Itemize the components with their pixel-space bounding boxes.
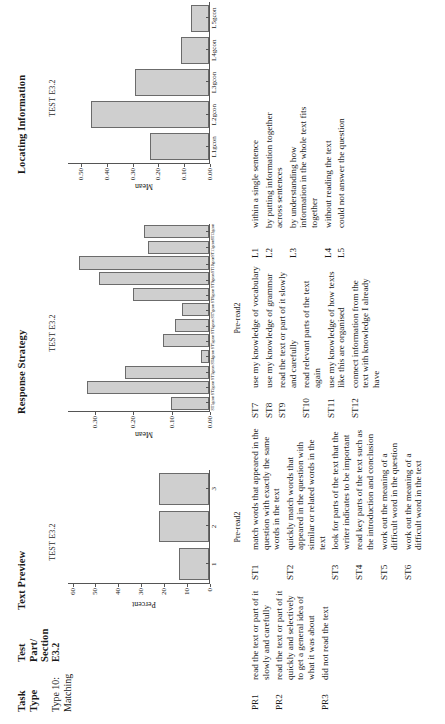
y-tick-label: 0.00	[206, 168, 214, 180]
y-tick-label: 50	[91, 588, 99, 595]
code-legend: PR1read the text or part of it slowly an…	[250, 8, 434, 714]
legend-description: read the text or part of it slowly and c…	[277, 266, 298, 388]
rotated-page-wrapper: TaskType TestPart/Section Text Preview R…	[0, 0, 445, 724]
chart-title-2: TEST E3.2	[48, 314, 57, 352]
chart-1-y-axis-label: Percent	[132, 600, 156, 609]
bar-slot	[68, 333, 209, 349]
legend-row: ST4read key parts of the text such as th…	[354, 428, 375, 580]
legend-description: did not read the text	[320, 588, 331, 680]
bar	[79, 256, 209, 269]
legend-code: ST9	[277, 388, 298, 418]
legend-row: L1within a single sentence	[250, 106, 261, 258]
legend-row: ST2quickly match words that appeared in …	[285, 428, 327, 580]
legend-code: ST5	[379, 550, 400, 580]
x-tick-label: ST2gcon	[210, 380, 228, 395]
legend-code: L5	[336, 228, 347, 258]
x-tick-label: L4gcon	[210, 34, 228, 66]
chart-text-preview: TEST E3.2 Percent 0102030405060 123 Pre-…	[44, 466, 244, 618]
bar-slot	[68, 224, 209, 240]
legend-row: ST5work out the meaning of a difficult w…	[379, 428, 400, 580]
bar-slot	[68, 395, 209, 411]
bar	[179, 548, 209, 580]
chart-title-3: TEST E3.2	[48, 79, 57, 117]
bar	[159, 473, 209, 505]
x-tick-label: L1gcon	[210, 131, 228, 163]
bar-slot	[68, 349, 209, 365]
chart-title-1: TEST E3.2	[48, 523, 57, 561]
bar-slot	[68, 364, 209, 380]
legend-row: PR2read the text or part of it quickly a…	[274, 588, 316, 710]
legend-description: read the text or part of it slowly and c…	[250, 588, 271, 680]
legend-description: work out the meaning of a difficult word…	[403, 428, 424, 550]
x-tick-label: ST4gcon	[210, 350, 228, 365]
chart-1-x-axis-label: Pre-read2	[233, 470, 242, 584]
legend-description: use my knowledge of how texts like this …	[326, 266, 347, 388]
legend-row: ST8use my knowledge of grammar	[264, 266, 275, 418]
bar	[148, 241, 209, 254]
bar	[99, 272, 210, 285]
bar-slot	[68, 470, 209, 508]
bar	[171, 397, 209, 410]
legend-code: ST4	[354, 550, 375, 580]
legend-row: PR3did not read the text	[320, 588, 331, 710]
chart-locating-information: TEST E3.2 Mean 0.000.100.200.300.400.50 …	[44, 0, 244, 198]
legend-code: L1	[250, 228, 261, 258]
legend-code: ST11	[326, 388, 347, 418]
x-tick-label: 1	[210, 545, 228, 583]
legend-code: L3	[288, 228, 320, 258]
x-tick-label: L2gcon	[210, 99, 228, 131]
bar	[91, 101, 209, 128]
x-tick-label: L3gcon	[210, 66, 228, 98]
legend-description: match words that appeared in the questio…	[250, 428, 282, 550]
legend-description: read relevant parts of the text again	[301, 266, 322, 388]
x-tick-label: ST10gcon	[210, 257, 228, 273]
legend-description: could not answer the question	[336, 106, 347, 228]
legend-code: ST6	[403, 550, 424, 580]
legend-description: read the text or part of it quickly and …	[274, 588, 316, 680]
x-tick-label: ST11gcon	[210, 240, 228, 256]
y-tick-label: 0.50	[77, 168, 85, 180]
legend-column-pre-read: PR1read the text or part of it slowly an…	[250, 588, 333, 710]
legend-description: read key parts of the text such as the i…	[354, 428, 375, 550]
bar	[163, 334, 209, 347]
x-tick-label: ST7gcon	[210, 304, 228, 319]
x-tick-label: ST5gcon	[210, 334, 228, 349]
bar	[125, 366, 209, 379]
chart-2-plot-area: 0.000.100.200.30	[68, 224, 210, 412]
legend-row: ST7use my knowledge of vocabulary	[250, 266, 261, 418]
y-tick-label: 40	[114, 588, 122, 595]
y-tick-label: 60	[69, 588, 77, 595]
legend-code: L2	[264, 228, 285, 258]
legend-code: PR3	[320, 680, 331, 710]
legend-description: work out the meaning of a difficult word…	[379, 428, 400, 550]
legend-row: ST6work out the meaning of a difficult w…	[403, 428, 424, 580]
chart-2-x-axis-label: Pre-read2	[233, 224, 242, 412]
legend-row: ST1match words that appeared in the ques…	[250, 428, 282, 580]
x-tick-label: L5gcon	[210, 2, 228, 34]
legend-description: connect information from the text with k…	[350, 266, 382, 388]
x-tick-label: 3	[210, 470, 228, 508]
bar-slot	[68, 66, 209, 98]
bar	[144, 225, 209, 238]
bar-slot	[68, 318, 209, 334]
x-tick-label: ST12gcon	[210, 224, 228, 240]
bar-slot	[68, 240, 209, 256]
legend-description: use my knowledge of vocabulary	[250, 266, 261, 388]
y-tick-label: 0.10	[168, 416, 176, 428]
legend-code: PR1	[250, 680, 271, 710]
chart-3-y-axis-label: Mean	[135, 182, 153, 191]
bar-slot	[68, 99, 209, 131]
legend-description: use my knowledge of grammar	[264, 266, 275, 388]
bar-slot	[68, 380, 209, 396]
chart-1-plot-area: 0102030405060	[68, 470, 210, 584]
chart-2-bars	[68, 224, 209, 411]
bar	[87, 381, 209, 394]
x-tick-label: ST1gcon	[210, 396, 228, 411]
chart-3-bars	[68, 2, 209, 163]
legend-row: L2by putting information together across…	[264, 106, 285, 258]
legend-code: ST7	[250, 388, 261, 418]
y-tick-label: 30	[137, 588, 145, 595]
legend-code: L4	[323, 228, 334, 258]
bar	[159, 511, 209, 543]
legend-description: look for parts of the text that the writ…	[330, 428, 351, 550]
